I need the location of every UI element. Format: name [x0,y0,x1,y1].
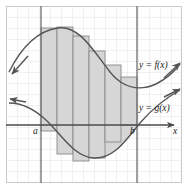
figure-canvas: y = f(x) y = g(x) a b x [6,6,182,183]
rectangle-5 [105,65,121,142]
rectangle-1 [41,28,57,131]
rectangle-4 [89,51,105,158]
label-bound-b: b [130,126,135,136]
rectangle-3 [73,36,89,161]
label-curve-f: y = f(x) [138,60,168,71]
label-curve-g: y = g(x) [138,103,170,114]
label-x-axis: x [172,126,178,136]
label-bound-a: a [33,126,38,136]
plot-area: y = f(x) y = g(x) a b x [6,6,182,183]
area-between-curves-figure: y = f(x) y = g(x) a b x [0,0,188,193]
